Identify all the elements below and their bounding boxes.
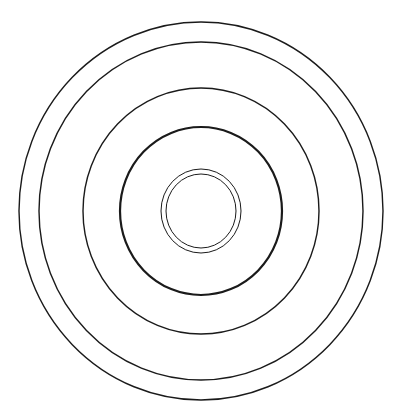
ring-inner-outer [161,169,241,253]
concentric-rings-figure [0,0,402,420]
ring-fourth-thick [120,127,282,295]
ring-inner-inner [166,174,236,248]
ring-third [83,88,319,334]
rings-drawing [0,0,402,420]
ring-outer [19,22,383,400]
ring-second [39,42,363,380]
